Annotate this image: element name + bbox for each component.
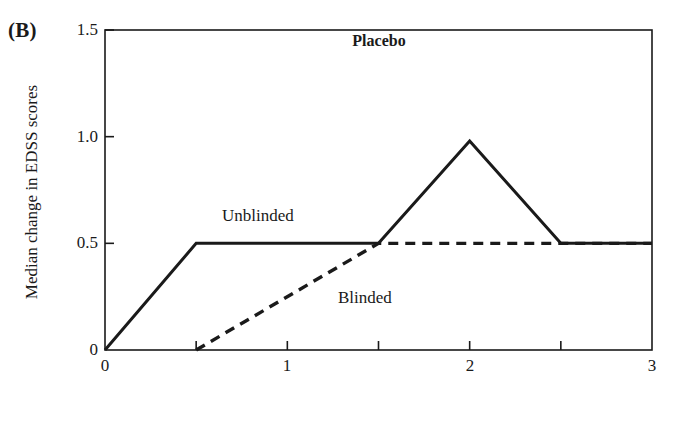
y-tick-label-1-0: 1.0 [52, 127, 98, 147]
x-tick-label-3: 3 [632, 356, 672, 376]
chart-title: Placebo [105, 32, 653, 50]
y-axis-title: Median change in EDSS scores [22, 42, 42, 342]
series-label-unblinded: Unblinded [222, 206, 294, 226]
figure-panel-b: (B) Median change in EDSS scores 1.5 1.0… [0, 0, 682, 423]
y-tick-label-1-5: 1.5 [52, 20, 98, 40]
series-lines [105, 141, 652, 350]
x-tick-label-1: 1 [267, 356, 307, 376]
series-line-blinded [196, 243, 652, 350]
series-line-unblinded [105, 141, 652, 350]
panel-letter: (B) [8, 18, 37, 43]
series-label-blinded: Blinded [338, 288, 392, 308]
axis-ticks [105, 30, 561, 350]
x-tick-label-2: 2 [450, 356, 490, 376]
x-tick-label-0: 0 [85, 356, 125, 376]
y-tick-label-0-5: 0.5 [52, 233, 98, 253]
